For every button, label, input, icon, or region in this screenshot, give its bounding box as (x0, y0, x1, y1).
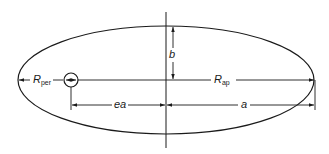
orbit-diagram: Rper Rap b ea a (0, 0, 329, 154)
r-ap-label: Rap (213, 74, 231, 88)
semi-minor-label: b (168, 49, 176, 60)
r-per-label: Rper (32, 74, 52, 88)
r-per-label-sub: per (41, 79, 51, 86)
r-per-label-main: R (33, 73, 41, 85)
r-ap-label-main: R (214, 73, 222, 85)
r-ap-label-sub: ap (222, 79, 230, 86)
focal-offset-label: ea (113, 99, 127, 110)
semi-major-label: a (240, 99, 248, 110)
